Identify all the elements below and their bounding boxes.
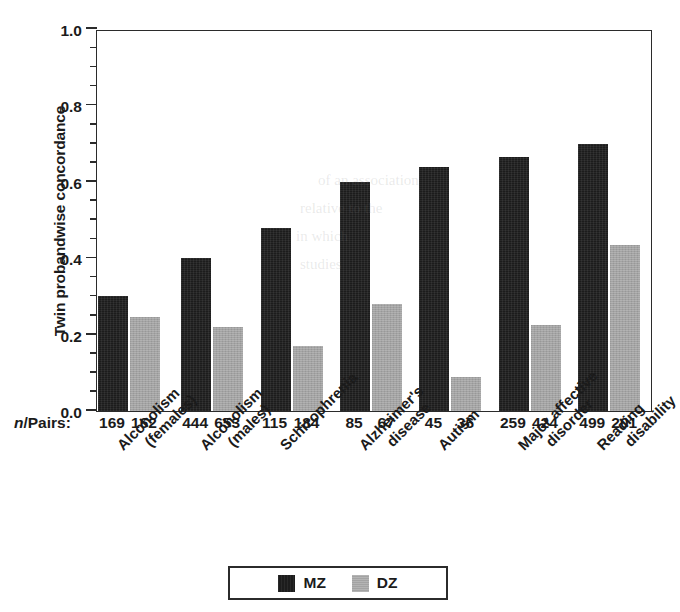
legend-item-dz: DZ bbox=[352, 574, 398, 592]
legend-swatch-dz-icon bbox=[352, 575, 369, 592]
bar-mz bbox=[261, 228, 291, 411]
bars-layer bbox=[97, 31, 651, 411]
legend: MZ DZ bbox=[228, 566, 448, 600]
y-tick-label: 0.6 bbox=[60, 175, 82, 193]
y-tick-minor bbox=[90, 123, 97, 125]
legend-swatch-mz-icon bbox=[278, 575, 295, 592]
y-tick-label: 0.4 bbox=[60, 251, 82, 269]
y-tick-minor bbox=[90, 390, 97, 392]
y-tick-major bbox=[86, 257, 97, 259]
y-tick-major bbox=[86, 180, 97, 182]
legend-label-mz: MZ bbox=[303, 574, 325, 592]
y-tick-minor bbox=[90, 199, 97, 201]
y-tick-major bbox=[86, 104, 97, 106]
y-tick-minor bbox=[90, 218, 97, 220]
npair-value-mz: 85 bbox=[345, 414, 362, 432]
y-tick-major bbox=[86, 27, 97, 29]
y-tick-minor bbox=[90, 66, 97, 68]
bar-mz bbox=[499, 157, 529, 411]
y-tick-minor bbox=[90, 352, 97, 354]
y-tick-minor bbox=[90, 314, 97, 316]
bar-dz bbox=[610, 245, 640, 411]
y-tick-label: 1.0 bbox=[60, 22, 82, 40]
y-tick-minor bbox=[90, 142, 97, 144]
y-tick-label: 0.8 bbox=[60, 98, 82, 116]
bar-dz bbox=[130, 317, 160, 411]
y-tick-minor bbox=[90, 371, 97, 373]
y-tick-major bbox=[86, 333, 97, 335]
y-tick-label: 0.2 bbox=[60, 328, 82, 346]
y-tick-minor bbox=[90, 295, 97, 297]
npair-value-mz: 259 bbox=[500, 414, 526, 432]
y-tick-minor bbox=[90, 276, 97, 278]
npairs-label-rest: /Pairs: bbox=[23, 414, 70, 431]
npair-value-mz: 169 bbox=[99, 414, 125, 432]
bar-dz bbox=[372, 304, 402, 411]
y-tick-minor bbox=[90, 161, 97, 163]
y-tick-minor bbox=[90, 47, 97, 49]
y-tick-major bbox=[86, 409, 97, 411]
npairs-row-label: n/Pairs: bbox=[14, 414, 71, 432]
plot-area: 0.00.20.40.60.81.0 bbox=[96, 30, 652, 412]
y-tick-minor bbox=[90, 85, 97, 87]
legend-item-mz: MZ bbox=[278, 574, 325, 592]
legend-label-dz: DZ bbox=[377, 574, 398, 592]
y-tick-minor bbox=[90, 238, 97, 240]
bar-mz bbox=[98, 296, 128, 411]
bar-dz bbox=[451, 377, 481, 411]
bar-mz bbox=[181, 258, 211, 411]
bar-mz bbox=[419, 167, 449, 411]
